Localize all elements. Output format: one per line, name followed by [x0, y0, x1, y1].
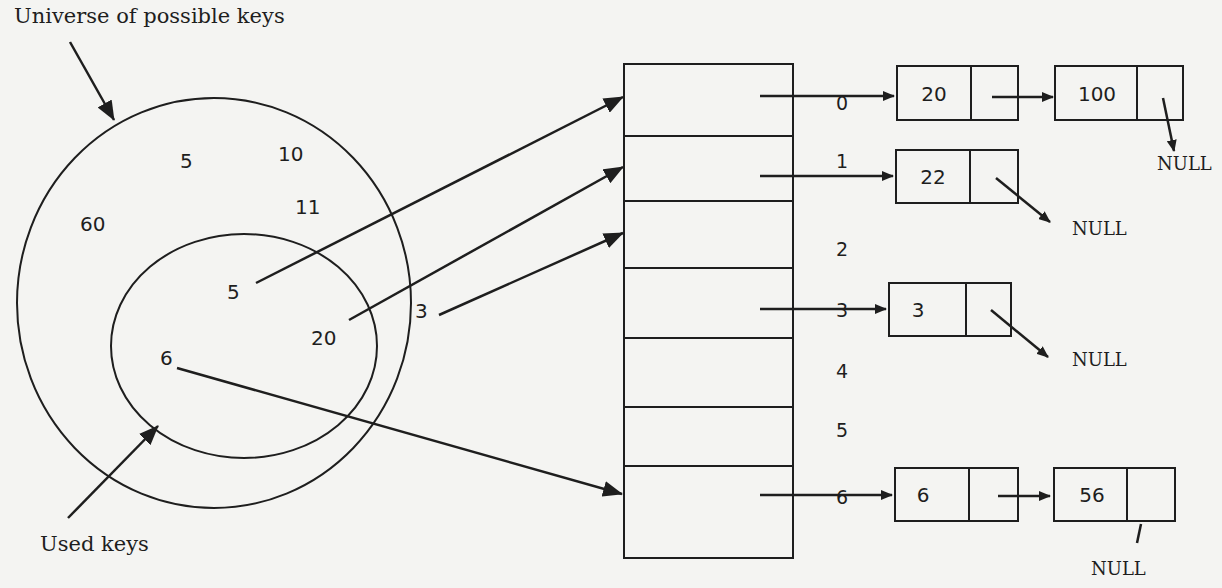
arrow-key6-to-bucket6: [177, 368, 622, 494]
used-key: 20: [311, 326, 336, 350]
chain-node-3: [889, 283, 1011, 336]
null-pointer-line: [1137, 524, 1141, 543]
null-label: NULL: [1072, 218, 1127, 239]
null-pointer-arrow: [1163, 98, 1174, 151]
node-value: 22: [920, 165, 945, 189]
arrow-key20-to-bucket1: [349, 167, 623, 320]
chain-node-6: [895, 468, 1018, 521]
universe-key: 11: [295, 195, 320, 219]
node-value: 100: [1078, 82, 1116, 106]
bucket-index: 6: [836, 486, 848, 508]
node-value: 56: [1079, 483, 1104, 507]
hash-chaining-diagram: Universe of possible keys 5 10 11 60 5 2…: [0, 0, 1222, 588]
hash-table: [624, 64, 793, 558]
node-value: 6: [917, 483, 930, 507]
used-keys-label: Used keys: [40, 532, 149, 556]
used-keys-ellipse: [111, 234, 377, 458]
null-pointer-arrow: [991, 310, 1048, 357]
chain-node-56: [1054, 468, 1175, 521]
key-3-label: 3: [415, 299, 428, 323]
null-label: NULL: [1072, 349, 1127, 370]
bucket-index: 1: [836, 150, 848, 172]
bucket-index: 2: [836, 238, 848, 260]
null-label: NULL: [1091, 558, 1146, 579]
null-label: NULL: [1157, 153, 1212, 174]
node-value: 3: [912, 298, 925, 322]
universe-key: 10: [278, 142, 303, 166]
used-keys-arrow: [68, 426, 158, 518]
used-key: 5: [227, 280, 240, 304]
universe-ellipse: [17, 98, 411, 508]
universe-label: Universe of possible keys: [14, 4, 285, 28]
chain-node-100: [1055, 66, 1183, 120]
bucket-index: 4: [836, 360, 848, 382]
diagram-svg: Universe of possible keys 5 10 11 60 5 2…: [0, 0, 1222, 588]
universe-key: 60: [80, 212, 105, 236]
chain-node-20: [897, 66, 1018, 120]
universe-arrow: [70, 42, 114, 120]
arrow-key3-to-bucket2: [439, 233, 623, 315]
used-key: 6: [160, 346, 173, 370]
null-pointer-arrow: [996, 178, 1050, 222]
chain-node-22: [896, 150, 1018, 203]
universe-key: 5: [180, 149, 193, 173]
bucket-index: 5: [836, 419, 848, 441]
node-value: 20: [921, 82, 946, 106]
